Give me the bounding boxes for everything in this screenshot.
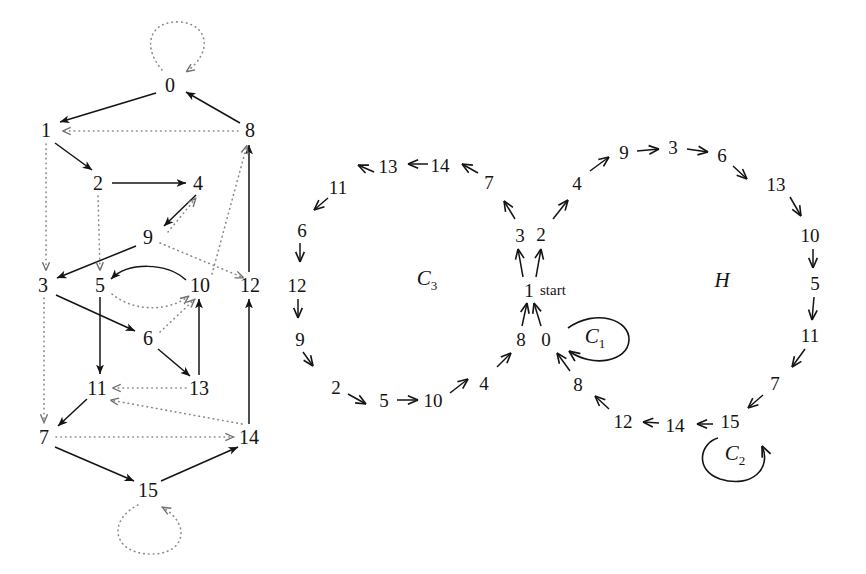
cycle-label-c1: C1 <box>585 324 606 352</box>
cycle-node-c3-13: 13 <box>379 157 398 176</box>
arrow-2-4h <box>553 200 568 219</box>
arrow-3-6 <box>687 149 708 152</box>
cycle-node-c3-10: 10 <box>424 391 443 410</box>
cycle-node-c3-5: 5 <box>379 391 389 410</box>
arrow-13-11 <box>358 165 374 172</box>
cycle-node-center-8: 8 <box>516 330 526 349</box>
arrow-13-10 <box>790 197 801 216</box>
cycle-label-c3: C3 <box>417 266 438 294</box>
cycle-node-h-11: 11 <box>801 326 819 345</box>
cycle-node-h-13: 13 <box>767 175 786 194</box>
cycle-label-c2: C2 <box>725 441 746 469</box>
arrow-11-6 <box>314 198 328 210</box>
start-label: start <box>540 282 566 299</box>
cycle-node-h-14: 14 <box>666 416 685 435</box>
cycle-node-c3-4: 4 <box>479 374 489 393</box>
cycle-node-h-9: 9 <box>619 143 629 162</box>
cycle-node-c3-11: 11 <box>329 178 347 197</box>
cycle-node-center-3: 3 <box>515 226 525 245</box>
arrow-12-8 <box>595 396 609 409</box>
cycle-node-h-3: 3 <box>668 138 678 157</box>
arrow-11-7 <box>792 349 805 367</box>
cycle-node-h-5: 5 <box>810 274 820 293</box>
arrow-1-2 <box>536 249 541 277</box>
arrow-9-2 <box>303 352 313 366</box>
arrow-4-9 <box>590 157 609 171</box>
cycle-node-h-6: 6 <box>717 146 727 165</box>
cycle-node-c3-2: 2 <box>331 378 341 397</box>
arrow-3-7 <box>504 201 515 219</box>
arrow-7-14 <box>462 164 478 173</box>
cycle-node-c3-9: 9 <box>295 330 305 349</box>
arrow-4-8c <box>497 353 511 367</box>
cycle-node-h-10: 10 <box>801 226 820 245</box>
cycle-label-h: H <box>714 268 729 296</box>
cycle-node-c3-7: 7 <box>484 173 494 192</box>
cycle-node-center-0: 0 <box>541 330 551 349</box>
arrow-8-1 <box>522 303 527 326</box>
arrow-9-3 <box>637 149 659 151</box>
arrow-0-1 <box>534 303 541 326</box>
cycle-node-center-2: 2 <box>536 225 546 244</box>
arrow-6-13 <box>733 166 747 179</box>
cycle-node-c3-6: 6 <box>297 221 307 240</box>
cycle-node-center-1: 1 <box>524 281 534 300</box>
cycle-node-c3-12: 12 <box>288 276 307 295</box>
arrow-5-11 <box>812 297 814 320</box>
arrow-1-3 <box>518 249 523 277</box>
cycle-node-h-15: 15 <box>721 412 740 431</box>
cycle-node-c3-14: 14 <box>431 156 450 175</box>
cycle-node-h-7: 7 <box>770 374 780 393</box>
figure-canvas: 0 1 8 2 4 9 3 5 10 12 6 11 13 7 14 15 <box>0 0 866 574</box>
arrow-2-5 <box>348 394 366 404</box>
arrow-8-0 <box>557 353 570 371</box>
cycle-node-h-12: 12 <box>614 412 633 431</box>
cycle-node-h-8: 8 <box>573 375 583 394</box>
cycle-node-h-4: 4 <box>572 174 582 193</box>
arrow-14-12 <box>643 422 659 423</box>
arrow-7-15 <box>748 395 763 408</box>
arrow-10-4 <box>450 379 468 393</box>
